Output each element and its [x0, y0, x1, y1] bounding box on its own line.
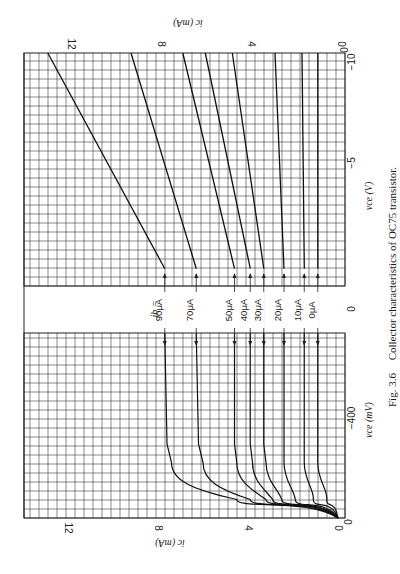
figure-caption-text: Collector characteristics of OC75 transi…: [386, 167, 398, 361]
ic-tick: 8: [156, 41, 167, 47]
figure-number: Fig. 3.6: [386, 373, 398, 407]
vce-volt-tick: 0: [339, 47, 350, 53]
ib-label: 30μA: [252, 298, 263, 321]
curve-70ua-high: [131, 53, 196, 269]
curve-10ua-high: [302, 53, 304, 269]
ic-tick: 8: [153, 525, 164, 531]
ib-label: 50μA: [223, 298, 234, 321]
vce-volt-tick: −10: [346, 53, 357, 70]
curve-70ua-low: [196, 333, 338, 518]
ic-tick: 4: [246, 41, 257, 47]
curve-0ua-low: [318, 333, 338, 518]
ib-label: 20μA: [272, 298, 283, 321]
vce-volt-ticks: 0−5−100: [339, 47, 357, 312]
ic-axis-label-bottom: ic (mA): [154, 537, 184, 549]
figure-caption: Fig. 3.6 Collector characteristics of OC…: [386, 167, 398, 407]
ic-axis-label-top: ic (mA): [172, 17, 202, 29]
ic-ticks-bottom: 12840: [63, 522, 344, 534]
vce-volt-tick-zero: 0: [346, 306, 357, 312]
curve-20ua-low: [284, 333, 338, 518]
chart-svg: 12840 12840 ic (mA) ic (mA) 0−5−100 vce …: [0, 0, 400, 574]
ic-tick: 0: [333, 525, 344, 531]
ic-tick: 12: [66, 38, 77, 50]
curve-10ua-low: [304, 333, 338, 518]
vce-millivolt-tick: −400: [346, 406, 357, 429]
ib-label: 0μA: [306, 301, 317, 319]
ib-labels: 90μA70μA50μA40μA30μA20μA10μA0μA: [153, 292, 319, 328]
ib-prefix: ib =: [149, 300, 160, 317]
vce-millivolt-tick: 0: [343, 519, 354, 525]
ib-label: 40μA: [238, 298, 249, 321]
ic-tick: 4: [243, 525, 254, 531]
ic-tick: 0: [336, 41, 347, 47]
curve-20ua-high: [275, 53, 284, 269]
ic-tick: 12: [63, 522, 74, 534]
vce-millivolt-axis-label: vce (mV): [363, 401, 375, 437]
vce-volt-axis-label: vce (V): [363, 181, 375, 210]
chart-figure: 12840 12840 ic (mA) ic (mA) 0−5−100 vce …: [0, 0, 400, 574]
vce-volt-tick: −5: [346, 157, 357, 169]
ib-label: 10μA: [292, 298, 303, 321]
lower-grid-panel: [24, 333, 345, 518]
ic-ticks-top: 12840: [66, 38, 347, 50]
ib-label: 70μA: [184, 298, 195, 321]
curve-50ua-high: [183, 53, 235, 269]
upper-grid-panel: [24, 53, 345, 518]
